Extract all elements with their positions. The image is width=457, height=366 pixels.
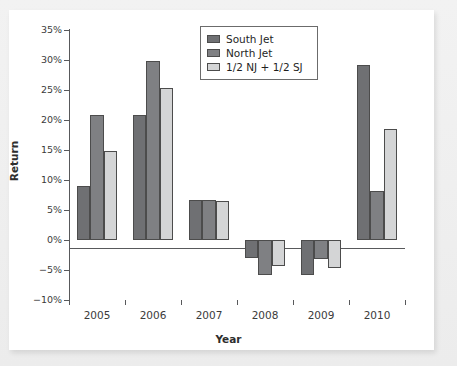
x-tick-label: 2009 (291, 309, 351, 321)
bar (160, 88, 174, 240)
legend-item-south-jet: South Jet (207, 32, 311, 45)
y-tick-label: 30% (12, 55, 62, 65)
y-axis-line (69, 29, 70, 301)
x-tick (69, 300, 70, 305)
zero-line (69, 248, 405, 249)
y-tick-label-text: 15% (18, 145, 62, 154)
x-tick (237, 300, 238, 305)
x-tick (125, 300, 126, 305)
y-tick-label-text: 20% (18, 115, 62, 124)
y-tick-label: 0% (12, 235, 62, 245)
y-tick-label-text: 25% (18, 85, 62, 94)
y-tick-label: 35% (12, 25, 62, 35)
legend-swatch-blend (207, 63, 220, 71)
bar (272, 240, 286, 266)
bar (314, 240, 328, 259)
bar (258, 240, 272, 275)
x-tick (405, 300, 406, 305)
x-tick-label: 2010 (347, 309, 407, 321)
bar (189, 200, 203, 240)
legend-item-north-jet: North Jet (207, 46, 311, 59)
legend-label-blend: 1/2 NJ + 1/2 SJ (226, 61, 303, 73)
bar (133, 115, 147, 240)
x-tick (293, 300, 294, 305)
legend-swatch-south-jet (207, 35, 220, 43)
legend-label-south-jet: South Jet (226, 33, 274, 45)
bar (146, 61, 160, 240)
y-tick-label: 20% (12, 115, 62, 125)
y-tick-label: 25% (12, 85, 62, 95)
y-tick-label-text: 35% (18, 25, 62, 34)
bar (328, 240, 342, 268)
y-tick (64, 240, 70, 241)
y-tick (64, 270, 70, 271)
y-tick-label-text: 5% (18, 205, 62, 214)
bar (104, 151, 118, 240)
x-tick (349, 300, 350, 305)
y-tick (64, 60, 70, 61)
chart-legend: South Jet North Jet 1/2 NJ + 1/2 SJ (200, 26, 318, 80)
bar (301, 240, 315, 275)
y-tick (64, 180, 70, 181)
x-tick-label: 2006 (123, 309, 183, 321)
y-tick-label: −5% (12, 265, 62, 275)
y-tick (64, 90, 70, 91)
y-tick (64, 210, 70, 211)
bar (202, 200, 216, 240)
x-tick (181, 300, 182, 305)
bar (370, 191, 384, 240)
y-tick-label-text: −5% (18, 265, 62, 274)
x-axis-title: Year (0, 333, 457, 345)
y-axis-title: Return (8, 131, 20, 191)
bar (77, 186, 91, 240)
y-tick (64, 150, 70, 151)
legend-item-blend: 1/2 NJ + 1/2 SJ (207, 60, 311, 73)
bar (90, 115, 104, 240)
y-tick-label-text: 30% (18, 55, 62, 64)
y-tick-label-text: 0% (18, 235, 62, 244)
legend-swatch-north-jet (207, 49, 220, 57)
bar (384, 129, 398, 240)
bar (245, 240, 259, 258)
legend-label-north-jet: North Jet (226, 47, 272, 59)
bar (357, 65, 371, 240)
y-tick (64, 30, 70, 31)
x-tick-label: 2007 (179, 309, 239, 321)
bar (216, 201, 230, 240)
plot-area: 35%30%25%20%15%10%5%0%−5%−10% 2005200620… (0, 0, 457, 366)
y-tick-label: 5% (12, 205, 62, 215)
y-tick-label: −10% (12, 295, 62, 305)
y-tick (64, 120, 70, 121)
figure-background: 35%30%25%20%15%10%5%0%−5%−10% 2005200620… (0, 0, 457, 366)
x-tick-label: 2005 (67, 309, 127, 321)
y-tick-label-text: −10% (18, 295, 62, 304)
x-tick-label: 2008 (235, 309, 295, 321)
y-tick-label-text: 10% (18, 175, 62, 184)
